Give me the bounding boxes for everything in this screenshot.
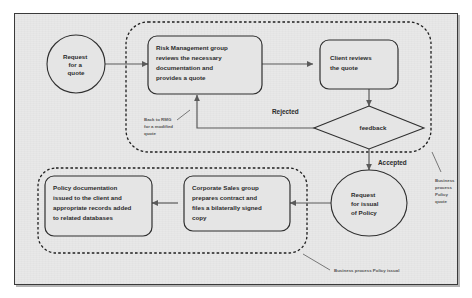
edge-label-accepted: Accepted [378, 159, 407, 167]
leader-policy-issual-group [303, 254, 330, 270]
flowchart-diagram: Request for a quote Risk Management grou… [0, 0, 472, 298]
annotation-back-to-rmg: Back to RMG for a modified quote [144, 117, 174, 136]
annotation-policy-quote-group: Business process Policy quote [435, 178, 456, 204]
leader-back-to-rmg [177, 110, 190, 120]
node-feedback-label: feedback [360, 124, 387, 131]
node-request-issual-label: Request for issual of Policy [351, 191, 380, 216]
node-risk-management-group[interactable]: Risk Management group reviews the necess… [148, 36, 262, 94]
node-request-for-issual[interactable]: Request for issual of Policy [331, 170, 407, 236]
node-feedback-decision[interactable]: feedback [314, 106, 424, 149]
annotation-policy-issual-group: Business process Policy issual [334, 268, 399, 273]
node-request-for-quote[interactable]: Request for a quote [47, 35, 105, 93]
node-policy-documentation[interactable]: Policy documentation issued to the clien… [45, 176, 152, 236]
screenshot-canvas: Request for a quote Risk Management grou… [0, 0, 472, 298]
node-corporate-sales-group[interactable]: Corporate Sales group prepares contract … [184, 176, 290, 231]
node-client-reviews-quote[interactable]: Client reviews the quote [320, 40, 398, 89]
edge-label-rejected: Rejected [272, 108, 299, 116]
leader-policy-quote-group [432, 152, 441, 172]
connector-feedback-rejected-to-rmg [197, 95, 317, 128]
